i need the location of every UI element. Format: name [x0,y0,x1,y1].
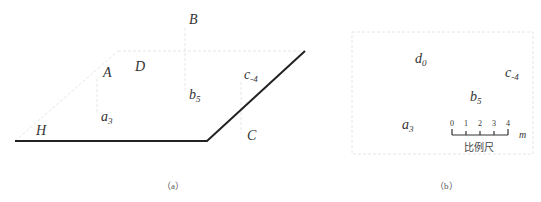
ground-line [15,51,305,141]
caption-b: （b） [435,181,458,191]
label-H: H [35,123,47,138]
scale-tick-label: 1 [464,119,468,128]
caption-a: （a） [162,181,184,191]
scale-bar: 0 1 2 3 4 m 比例尺 [450,119,526,153]
label-a: a3 [402,117,414,134]
label-d: d0 [415,51,427,68]
scale-tick-label: 0 [450,119,454,128]
label-c: c-4 [244,67,258,84]
figure-b: d0 c-4 b5 a3 0 1 2 3 4 m 比例尺 （b） [352,32,533,191]
label-b: b5 [189,87,201,104]
projection-diagram: B A D c-4 b5 a3 H C （a） d0 c-4 b5 a3 0 1… [0,0,541,202]
label-a: a3 [101,109,113,126]
label-b: b5 [470,89,482,106]
scale-tick-label: 4 [506,119,510,128]
scale-unit: m [519,129,526,140]
scale-tick-label: 2 [478,119,482,128]
label-c: c-4 [505,65,519,82]
label-C: C [247,128,257,143]
plan-boundary [352,32,533,154]
scale-tick-label: 3 [492,119,496,128]
label-D: D [134,59,145,74]
label-B: B [189,12,198,27]
scale-title: 比例尺 [464,141,494,153]
label-A: A [102,65,112,80]
figure-a: B A D c-4 b5 a3 H C （a） [15,12,305,191]
